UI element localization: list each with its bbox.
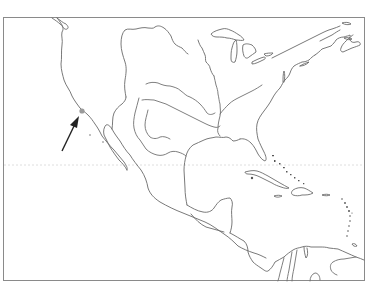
bahamas (272, 155, 304, 184)
lake-erie (252, 57, 265, 64)
sonora-coast (112, 97, 126, 129)
lake-michigan (231, 40, 237, 62)
red-river (145, 110, 170, 139)
st-lawrence-river (272, 26, 340, 58)
lake-ontario (264, 53, 273, 56)
anticosti-island (342, 22, 351, 24)
new-england-coast (315, 35, 360, 55)
rio-grande (134, 98, 186, 156)
magdalena-river (287, 252, 292, 281)
map-frame (4, 18, 365, 281)
jamaica (274, 195, 282, 197)
outline-map (0, 0, 382, 297)
northern-boundary (121, 26, 188, 97)
andes-range-line (292, 250, 297, 281)
cauca-river (278, 258, 284, 281)
atlantic-coast (240, 55, 315, 161)
channel-islet (89, 134, 90, 135)
lake-maracaibo (304, 247, 308, 258)
ohio-river (220, 85, 262, 114)
orinoco-river (330, 257, 356, 275)
hudson-bay-edge (198, 40, 214, 76)
lake-superior (211, 29, 244, 41)
hispaniola (292, 188, 314, 196)
lesser-antilles (341, 198, 352, 237)
lake-huron (243, 44, 256, 58)
cuba (245, 171, 289, 189)
chesapeake-bay (283, 71, 285, 82)
channel-islet (102, 141, 103, 142)
isle-of-youth (251, 177, 253, 179)
location-marker (79, 108, 84, 113)
puerto-rico (322, 194, 330, 196)
map-canvas (0, 0, 382, 297)
pointer-arrow (62, 116, 79, 151)
central-america-caribbean-coast (230, 233, 284, 271)
missouri-river (146, 82, 215, 114)
amazon-tributary (310, 273, 320, 281)
arrowhead-icon (70, 116, 79, 128)
trinidad (352, 244, 357, 247)
gulf-coast (184, 137, 240, 205)
